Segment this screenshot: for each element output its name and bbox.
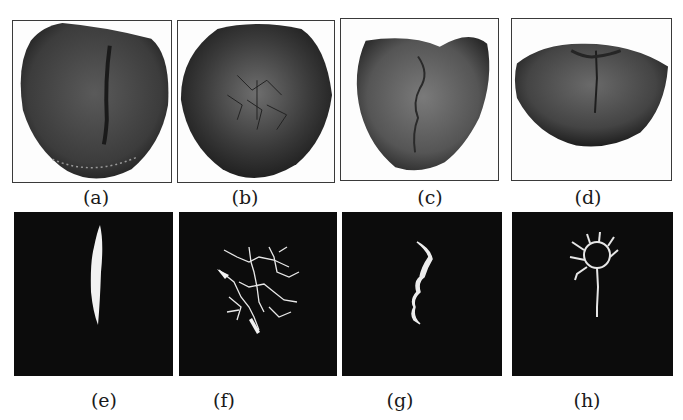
panel-d-tongue-photo bbox=[511, 18, 672, 181]
panel-label-b: (b) bbox=[215, 188, 275, 207]
crack-mask-h bbox=[512, 212, 673, 376]
panel-label-c: (c) bbox=[400, 188, 460, 207]
tongue-image-c bbox=[341, 19, 498, 180]
panel-label-h: (h) bbox=[557, 391, 617, 410]
panel-label-d: (d) bbox=[558, 188, 618, 207]
panel-a-tongue-photo bbox=[12, 20, 172, 183]
tongue-image-b bbox=[178, 21, 334, 182]
panel-label-a: (a) bbox=[66, 188, 126, 207]
panel-e-crack-mask bbox=[14, 212, 173, 376]
crack-mask-e bbox=[14, 212, 173, 376]
panel-b-tongue-photo bbox=[177, 20, 335, 183]
crack-mask-g bbox=[342, 212, 502, 376]
crack-mask-f bbox=[179, 212, 337, 376]
panel-label-g: (g) bbox=[370, 391, 430, 410]
panel-f-crack-mask bbox=[179, 212, 337, 376]
panel-label-e: (e) bbox=[74, 391, 134, 410]
panel-h-crack-mask bbox=[512, 212, 673, 376]
panel-label-f: (f) bbox=[194, 391, 254, 410]
tongue-image-a bbox=[13, 21, 171, 182]
tongue-image-d bbox=[512, 19, 671, 180]
panel-c-tongue-photo bbox=[340, 18, 499, 181]
panel-g-crack-mask bbox=[342, 212, 502, 376]
